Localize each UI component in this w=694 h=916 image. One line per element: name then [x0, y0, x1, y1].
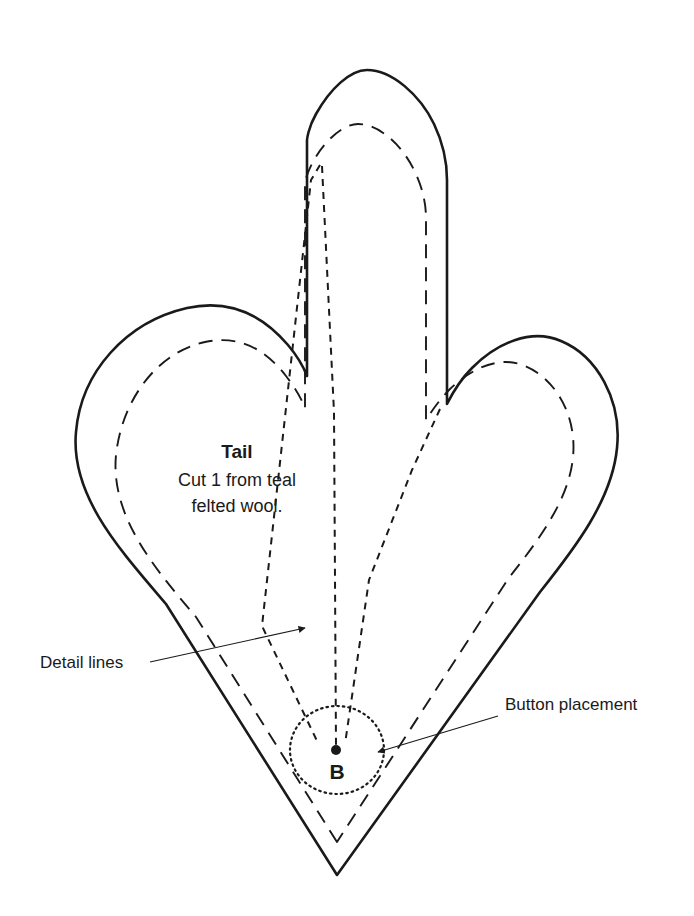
piece-instruction-line-1: Cut 1 from teal	[178, 470, 296, 490]
piece-instruction-line-2: felted wool.	[191, 496, 282, 516]
button-placement-label: Button placement	[505, 695, 638, 714]
tail-pattern-diagram: B Tail Cut 1 from teal felted wool. Deta…	[0, 0, 694, 916]
pattern-outline	[76, 70, 618, 875]
button-center-dot	[331, 745, 341, 755]
button-letter-label: B	[329, 760, 344, 783]
pattern-page: B Tail Cut 1 from teal felted wool. Deta…	[0, 0, 694, 916]
detail-lines-label: Detail lines	[40, 653, 123, 672]
piece-name-label: Tail	[221, 441, 252, 462]
